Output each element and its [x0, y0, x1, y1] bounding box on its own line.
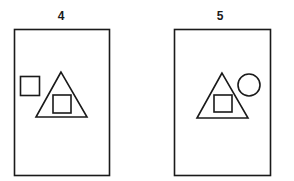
panel-5: 5 — [175, 9, 271, 176]
panel-frame — [175, 30, 271, 176]
panel-label: 5 — [217, 9, 224, 23]
outer-square-shape — [21, 77, 40, 96]
inner-square-shape — [214, 95, 232, 112]
circle-shape — [238, 74, 260, 96]
figure-canvas: 4 5 — [0, 0, 294, 181]
panel-label: 4 — [58, 9, 65, 23]
panel-frame — [15, 30, 110, 176]
panel-4: 4 — [15, 9, 110, 176]
inner-square-shape — [53, 95, 71, 113]
